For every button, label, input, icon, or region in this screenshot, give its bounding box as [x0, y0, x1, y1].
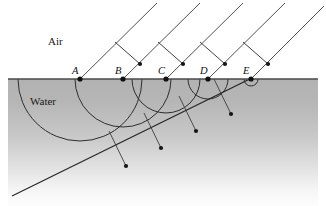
incidence-point-E	[248, 76, 253, 81]
point-label-c: C	[158, 65, 166, 76]
incidence-point-A	[77, 76, 82, 81]
point-label-e: E	[242, 65, 250, 76]
incidence-point-B	[120, 76, 125, 81]
air-label: Air	[48, 35, 63, 47]
point-label-b: B	[115, 65, 122, 76]
refraction-diagram-figure: A B C D E Air Water	[0, 0, 326, 206]
diagram-canvas: A B C D E Air Water	[0, 0, 326, 206]
point-label-d: D	[199, 65, 208, 76]
incidence-point-D	[205, 76, 210, 81]
point-label-a: A	[71, 65, 79, 76]
incidence-point-C	[163, 76, 168, 81]
water-label: Water	[30, 95, 56, 107]
